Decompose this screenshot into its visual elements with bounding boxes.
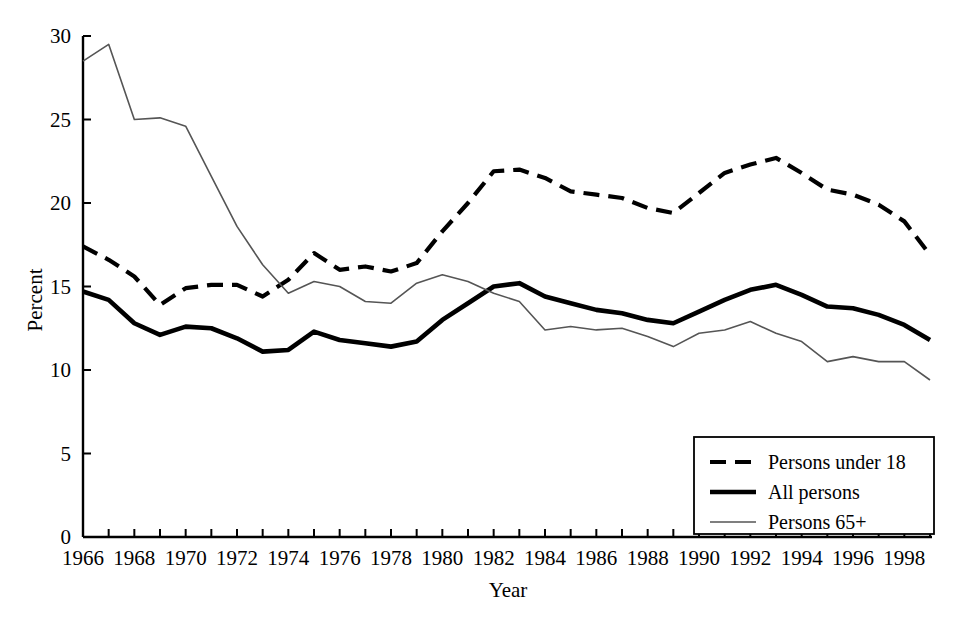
chart-figure: 051015202530 196619681970197219741976197…	[0, 0, 957, 620]
y-tick-label-20: 20	[50, 191, 71, 215]
y-tick-label-15: 15	[50, 275, 71, 299]
x-tick-label-1994: 1994	[781, 546, 824, 570]
x-tick-label-1970: 1970	[165, 546, 207, 570]
y-axis-title: Percent	[23, 268, 47, 331]
x-tick-label-1972: 1972	[216, 546, 258, 570]
line-chart: 051015202530 196619681970197219741976197…	[0, 0, 957, 620]
series-line-all-persons	[83, 283, 930, 351]
legend: Persons under 18All personsPersons 65+	[694, 437, 934, 534]
x-tick-label-1990: 1990	[678, 546, 720, 570]
x-tick-label-1968: 1968	[113, 546, 155, 570]
x-tick-label-1992: 1992	[729, 546, 771, 570]
x-axis-title: Year	[489, 578, 528, 602]
x-tick-label-1980: 1980	[421, 546, 463, 570]
x-tick-label-1974: 1974	[267, 546, 310, 570]
x-tick-label-1982: 1982	[473, 546, 515, 570]
y-axis-tick-labels: 051015202530	[50, 24, 71, 549]
data-series-group	[83, 44, 930, 380]
x-tick-label-1988: 1988	[627, 546, 669, 570]
x-axis-tick-labels: 1966196819701972197419761978198019821984…	[62, 546, 925, 570]
legend-label-0: Persons under 18	[768, 451, 906, 473]
y-tick-label-30: 30	[50, 24, 71, 48]
y-tick-label-5: 5	[61, 442, 72, 466]
legend-label-2: Persons 65+	[768, 511, 867, 533]
legend-label-1: All persons	[768, 481, 860, 504]
x-tick-label-1996: 1996	[832, 546, 874, 570]
y-tick-label-25: 25	[50, 108, 71, 132]
x-tick-label-1976: 1976	[319, 546, 361, 570]
x-tick-label-1966: 1966	[62, 546, 104, 570]
x-tick-label-1986: 1986	[575, 546, 617, 570]
x-tick-label-1978: 1978	[370, 546, 412, 570]
x-tick-label-1984: 1984	[524, 546, 567, 570]
x-tick-label-1998: 1998	[883, 546, 925, 570]
y-tick-label-10: 10	[50, 358, 71, 382]
